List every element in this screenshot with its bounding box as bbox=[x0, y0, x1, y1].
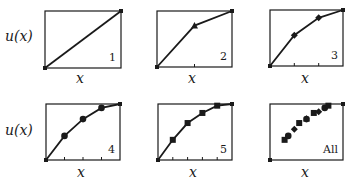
panel-4: 4 bbox=[44, 102, 122, 162]
panel-5: 5 bbox=[156, 102, 234, 162]
panel-number-label: 3 bbox=[331, 49, 338, 62]
small-multiples-plot: 12345All bbox=[0, 0, 357, 187]
panel-number-label: All bbox=[322, 143, 338, 156]
panel-2: 2 bbox=[155, 9, 234, 69]
panel-1: 1 bbox=[43, 9, 123, 70]
panel-all: All bbox=[268, 102, 345, 162]
panel-number-label: 1 bbox=[109, 51, 116, 64]
panel-number-label: 5 bbox=[220, 143, 227, 156]
panel-number-label: 2 bbox=[220, 50, 227, 63]
panel-3: 3 bbox=[268, 8, 345, 68]
panel-number-label: 4 bbox=[108, 143, 115, 156]
